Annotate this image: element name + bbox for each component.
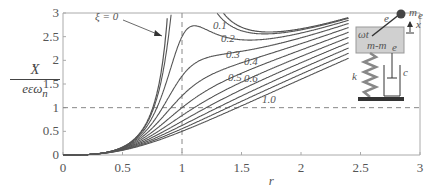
curve-xi-0.2	[63, 20, 349, 155]
y-tick-label: 1	[53, 100, 60, 115]
mass-spring-damper-diagram: m-meωtemexkc	[352, 6, 423, 101]
curve-xi-0.6	[63, 37, 349, 155]
spring-label: k	[352, 70, 358, 82]
curve-xi-0.1	[63, 13, 349, 155]
curve-label-1.0: 1.0	[262, 93, 276, 105]
omega-label: ωt	[358, 28, 370, 40]
curve-xi-0.3	[63, 23, 349, 155]
displacement-arrow-head	[407, 21, 413, 27]
curve-xi-0.5	[63, 32, 349, 155]
y-label-subscript: n	[42, 87, 47, 99]
curve-label-ξ = 0: ξ = 0	[95, 10, 119, 23]
y-tick-label: 3	[53, 5, 60, 20]
curve-label-0.5: 0.5	[228, 71, 242, 83]
x-tick-label: 0.5	[114, 160, 130, 175]
spring	[364, 53, 376, 97]
x-tick-label: 1.5	[233, 160, 249, 175]
curve-xi-1.0	[63, 58, 349, 155]
y-tick-label: 0.5	[43, 123, 59, 138]
ground	[358, 97, 404, 101]
curve-xi-0.8	[63, 48, 349, 155]
curve-xi-0	[63, 18, 167, 155]
x-tick-label: 1	[179, 160, 186, 175]
eccentric-mass	[397, 10, 406, 19]
mass-label: m-m	[367, 39, 387, 51]
curve-xi-0.7	[63, 43, 349, 155]
eccentricity-label: e	[384, 12, 389, 24]
curve-labels: ξ = 00.10.20.30.40.50.61.0	[95, 10, 276, 105]
curves	[63, 13, 349, 155]
x-axis-label: r	[269, 173, 275, 188]
displacement-label: x	[415, 18, 421, 30]
x-tick-label: 2	[298, 160, 305, 175]
curve-label-0.6: 0.6	[244, 72, 258, 84]
y-axis-label: ·X eεωn	[10, 62, 60, 99]
eccentric-mass-label: m	[409, 6, 417, 18]
x-tick-label: 0	[60, 160, 67, 175]
y-tick-label: 2.5	[43, 29, 59, 44]
curve-xi-0.9	[63, 53, 349, 155]
chart: 00.511.522.5300.511.522.53r ξ = 00.10.20…	[0, 0, 438, 188]
derivative-dot: ·	[32, 59, 35, 74]
curve-label-0.3: 0.3	[226, 48, 240, 60]
x-tick-label: 3	[417, 160, 424, 175]
y-tick-label: 0	[53, 147, 60, 162]
curve-label-0.1: 0.1	[213, 19, 227, 31]
damper-label: c	[403, 66, 408, 78]
arrow-head-icon	[154, 30, 162, 36]
y-label-denominator: eεω	[22, 81, 42, 96]
x-tick-label: 2.5	[352, 160, 368, 175]
curve-label-0.4: 0.4	[244, 55, 258, 67]
curve-label-0.2: 0.2	[221, 32, 235, 44]
mass-label-sub: e	[392, 41, 397, 53]
